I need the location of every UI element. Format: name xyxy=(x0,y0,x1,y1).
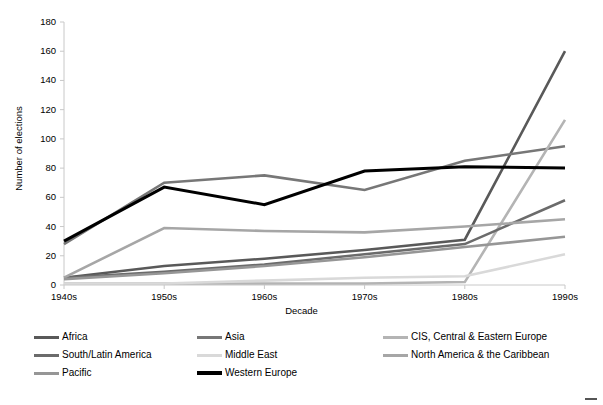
legend-item-label: CIS, Central & Eastern Europe xyxy=(411,331,547,343)
legend-swatch-icon xyxy=(197,336,222,339)
legend-item-label: Pacific xyxy=(62,367,91,379)
y-axis-tick-label: 120 xyxy=(22,105,56,115)
x-axis-tick-label: 1970s xyxy=(325,292,405,302)
legend-swatch-icon xyxy=(383,336,408,339)
y-axis-tick-label: 0 xyxy=(22,280,56,290)
legend-item[interactable]: Western Europe xyxy=(197,366,297,380)
legend-swatch-icon xyxy=(197,371,222,375)
legend-swatch-icon xyxy=(34,336,59,339)
legend-swatch-icon xyxy=(197,354,222,357)
legend-item-label: Africa xyxy=(62,331,88,343)
plot-svg xyxy=(0,0,603,320)
legend-item-label: South/Latin America xyxy=(62,349,152,361)
x-axis-tick-label: 1990s xyxy=(525,292,603,302)
series-line xyxy=(64,167,565,242)
y-axis-tick-label: 20 xyxy=(22,251,56,261)
plot-area xyxy=(0,0,603,320)
legend-item-label: Middle East xyxy=(225,349,277,361)
x-axis-tick-label: 1950s xyxy=(124,292,204,302)
x-axis-tick-label: 1940s xyxy=(24,292,104,302)
x-axis-title: Decade xyxy=(0,305,603,316)
legend-item[interactable]: CIS, Central & Eastern Europe xyxy=(383,330,547,344)
legend-item-label: Western Europe xyxy=(225,367,297,379)
legend-swatch-icon xyxy=(383,354,408,357)
legend-swatch-icon xyxy=(34,372,59,375)
y-axis-tick-label: 140 xyxy=(22,75,56,85)
x-axis-tick-label: 1980s xyxy=(425,292,505,302)
y-axis-tick-label: 180 xyxy=(22,17,56,27)
y-axis-tick-label: 160 xyxy=(22,46,56,56)
corner-mark xyxy=(585,398,597,400)
legend-item[interactable]: South/Latin America xyxy=(34,348,152,362)
y-axis-tick-label: 60 xyxy=(22,192,56,202)
chart-legend: AfricaAsiaCIS, Central & Eastern EuropeS… xyxy=(0,330,603,392)
legend-item[interactable]: Middle East xyxy=(197,348,277,362)
series-line xyxy=(64,200,565,277)
legend-item[interactable]: North America & the Caribbean xyxy=(383,348,549,362)
x-axis-tick-label: 1960s xyxy=(224,292,304,302)
y-axis-tick-label: 80 xyxy=(22,163,56,173)
legend-item[interactable]: Africa xyxy=(34,330,88,344)
legend-item[interactable]: Pacific xyxy=(34,366,91,380)
legend-swatch-icon xyxy=(34,354,59,357)
line-chart: Number of elections Decade 0204060801001… xyxy=(0,0,603,405)
legend-item-label: North America & the Caribbean xyxy=(411,349,549,361)
y-axis-tick-label: 40 xyxy=(22,222,56,232)
legend-item-label: Asia xyxy=(225,331,244,343)
legend-item[interactable]: Asia xyxy=(197,330,244,344)
y-axis-tick-label: 100 xyxy=(22,134,56,144)
